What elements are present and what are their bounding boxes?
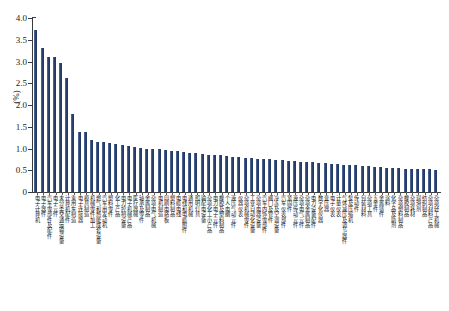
x-axis-tick <box>345 192 346 195</box>
x-axis-tick <box>314 192 315 195</box>
x-axis-tick-label: 杂项轻工机械 <box>433 196 440 228</box>
bar <box>256 159 259 192</box>
y-axis-tick-label: 1.5 <box>0 123 27 132</box>
x-axis-tick <box>191 192 192 195</box>
x-axis-tick <box>332 192 333 195</box>
x-axis-tick <box>388 192 389 195</box>
x-axis-tick <box>62 192 63 195</box>
x-axis-tick <box>394 192 395 195</box>
bar <box>348 165 351 192</box>
bar <box>127 146 130 192</box>
bar <box>188 153 191 192</box>
x-axis-tick <box>271 192 272 195</box>
x-axis-tick <box>240 192 241 195</box>
bar <box>244 158 247 192</box>
bar <box>213 155 216 192</box>
x-axis-tick <box>375 192 376 195</box>
bar <box>121 145 124 192</box>
y-axis-tick-label: 0 <box>0 188 27 197</box>
bar <box>361 166 364 192</box>
bar <box>53 57 56 192</box>
x-axis-tick <box>382 192 383 195</box>
x-axis-tick <box>406 192 407 195</box>
bar <box>281 160 284 192</box>
bar <box>330 164 333 192</box>
bar <box>176 151 179 192</box>
x-axis-tick <box>412 192 413 195</box>
x-axis-tick <box>320 192 321 195</box>
bar <box>367 166 370 192</box>
bar <box>158 149 161 192</box>
x-axis-tick <box>43 192 44 195</box>
x-axis-tick <box>339 192 340 195</box>
bar <box>287 161 290 192</box>
x-axis-tick <box>234 192 235 195</box>
y-axis-tick-label: 4.0 <box>0 14 27 23</box>
x-axis-tick <box>129 192 130 195</box>
x-axis-tick <box>136 192 137 195</box>
x-axis-tick <box>56 192 57 195</box>
x-axis-tick <box>246 192 247 195</box>
bar <box>34 30 37 192</box>
bar <box>151 149 154 192</box>
x-axis-tick <box>99 192 100 195</box>
bar <box>305 162 308 192</box>
bar <box>250 158 253 192</box>
bar <box>293 161 296 192</box>
bar-chart-figure: (%) 00.51.01.52.02.53.03.54.0 电子计算机电子器件汽… <box>0 0 449 311</box>
bar <box>207 155 210 192</box>
y-axis-tick <box>28 192 33 193</box>
bar <box>311 162 314 192</box>
x-axis-tick <box>179 192 180 195</box>
x-axis-tick <box>86 192 87 195</box>
bar <box>336 164 339 192</box>
bar <box>416 169 419 192</box>
x-axis-tick <box>142 192 143 195</box>
plot-area <box>33 18 440 192</box>
bar <box>379 167 382 192</box>
bar <box>262 159 265 192</box>
bar <box>274 160 277 192</box>
x-axis-tick <box>117 192 118 195</box>
y-axis-tick-label: 1.0 <box>0 145 27 154</box>
x-axis-tick <box>166 192 167 195</box>
x-axis-tick <box>185 192 186 195</box>
bar <box>59 63 62 192</box>
bar <box>71 114 74 192</box>
x-axis-tick <box>308 192 309 195</box>
x-axis-tick <box>277 192 278 195</box>
x-axis-tick <box>357 192 358 195</box>
x-axis-tick <box>265 192 266 195</box>
bar <box>194 153 197 192</box>
bar <box>47 57 50 192</box>
bar <box>434 170 437 192</box>
bar <box>108 143 111 192</box>
x-axis-tick <box>148 192 149 195</box>
bar <box>96 142 99 192</box>
bar <box>385 168 388 192</box>
x-axis-tick <box>425 192 426 195</box>
bar <box>164 150 167 192</box>
bar <box>84 132 87 192</box>
x-axis-tick <box>302 192 303 195</box>
x-axis-tick <box>437 192 438 195</box>
x-axis-tick <box>283 192 284 195</box>
bar <box>102 142 105 192</box>
y-axis-tick-label: 3.5 <box>0 36 27 45</box>
bar <box>139 148 142 192</box>
x-axis-tick <box>154 192 155 195</box>
bar <box>90 140 93 192</box>
bar <box>145 149 148 193</box>
x-axis-tick <box>68 192 69 195</box>
x-axis-tick <box>203 192 204 195</box>
x-axis-tick <box>369 192 370 195</box>
x-axis-tick <box>49 192 50 195</box>
bar <box>237 157 240 192</box>
bar <box>65 78 68 192</box>
x-axis-tick <box>431 192 432 195</box>
x-axis-tick <box>209 192 210 195</box>
x-axis-tick <box>92 192 93 195</box>
bar <box>78 132 81 192</box>
bar <box>268 159 271 192</box>
x-axis-tick <box>295 192 296 195</box>
